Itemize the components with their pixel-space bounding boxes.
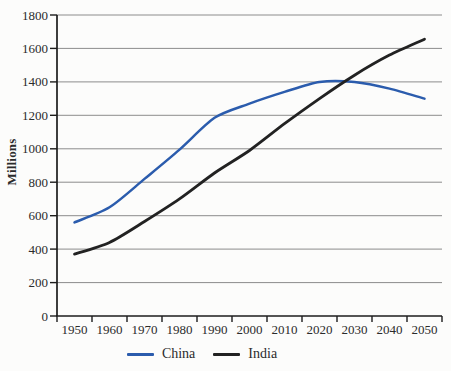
x-tick-label: 2010	[272, 322, 298, 337]
y-tick-label: 1400	[22, 74, 48, 89]
y-tick-label: 1800	[22, 8, 48, 23]
legend-label-china: China	[162, 347, 195, 361]
x-tick-label: 1970	[132, 322, 158, 337]
x-tick-label: 2000	[237, 322, 263, 337]
legend-item-india: India	[213, 347, 277, 361]
x-tick-label: 1980	[167, 322, 193, 337]
y-tick-label: 600	[29, 208, 49, 223]
x-tick-label: 1960	[97, 322, 123, 337]
x-tick-label: 2040	[377, 322, 403, 337]
x-tick-label: 1990	[202, 322, 228, 337]
india-line-swatch	[213, 353, 240, 356]
chart-legend: China India	[0, 347, 404, 361]
population-line-chart: 0200400600800100012001400160018001950196…	[0, 0, 451, 342]
y-axis-title: Millions	[4, 121, 20, 203]
x-tick-label: 2050	[412, 322, 438, 337]
y-tick-label: 800	[29, 175, 49, 190]
y-tick-label: 400	[29, 242, 49, 257]
y-tick-label: 1000	[22, 141, 48, 156]
y-tick-label: 1200	[22, 108, 48, 123]
series-line-india	[75, 39, 425, 254]
x-tick-label: 2030	[342, 322, 368, 337]
x-tick-label: 1950	[62, 322, 88, 337]
legend-label-india: India	[248, 347, 277, 361]
y-tick-label: 1600	[22, 41, 48, 56]
china-line-swatch	[127, 353, 154, 356]
y-tick-label: 0	[42, 309, 49, 324]
y-tick-label: 200	[29, 275, 49, 290]
x-tick-label: 2020	[307, 322, 333, 337]
population-chart-figure: 0200400600800100012001400160018001950196…	[0, 0, 451, 371]
legend-item-china: China	[127, 347, 195, 361]
